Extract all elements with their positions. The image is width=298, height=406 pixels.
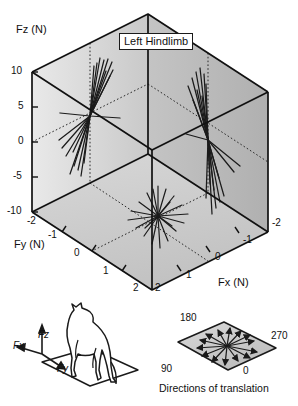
z-tick-5: 5 <box>18 101 24 111</box>
z-tick-0: 0 <box>18 136 24 146</box>
triad-label-fx: Fx <box>13 341 24 351</box>
compass-label-90: 90 <box>161 364 172 374</box>
y-tick-neg2: -2 <box>27 216 36 226</box>
compass-label-270: 270 <box>271 331 288 341</box>
plot-title: Left Hindlimb <box>119 33 193 50</box>
directions-compass-inset <box>158 308 298 388</box>
z-tick-10: 10 <box>11 66 22 76</box>
figure-root: Left Hindlimb Fz (N) Fy (N) Fx (N) 10 5 … <box>0 0 298 406</box>
x-tick-neg2: -2 <box>272 218 281 228</box>
x-tick-2: 2 <box>155 283 161 293</box>
z-tick-neg5: -5 <box>13 171 22 181</box>
x-tick-1: 1 <box>186 270 192 280</box>
y-axis-label: Fy (N) <box>14 239 45 250</box>
compass-label-0: 0 <box>243 366 249 376</box>
z-tick-neg10: -10 <box>7 206 21 216</box>
triad-label-fz: Fz <box>38 330 49 340</box>
cat-posture-inset <box>12 296 162 406</box>
z-axis-label: Fz (N) <box>16 24 47 35</box>
compass-label-180: 180 <box>180 313 197 323</box>
compass-caption: Directions of translation <box>159 383 269 394</box>
x-tick-neg1: -1 <box>243 235 252 245</box>
y-tick-neg1: -1 <box>48 230 57 240</box>
x-axis-label: Fx (N) <box>218 277 249 288</box>
y-tick-1: 1 <box>103 266 109 276</box>
y-tick-0: 0 <box>74 248 80 258</box>
x-tick-0: 0 <box>215 252 221 262</box>
y-tick-2: 2 <box>133 283 139 293</box>
triad-label-fy: Fy <box>57 364 68 374</box>
